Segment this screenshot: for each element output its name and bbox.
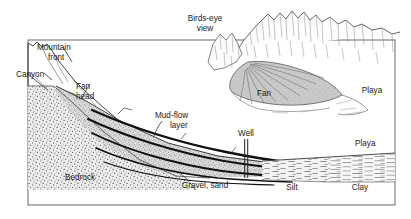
- inset-label-playa: Playa: [362, 86, 383, 95]
- label-bedrock: Bedrock: [65, 173, 96, 182]
- label-silt: Silt: [286, 183, 298, 192]
- figure-canvas: Mountain front Canyon Fan head Mud-flow …: [0, 0, 411, 219]
- label-well: Well: [238, 129, 254, 138]
- label-mudflow-2: layer: [170, 121, 188, 130]
- inset-label-fan: Fan: [257, 89, 272, 98]
- label-mountain-front-2: front: [48, 53, 65, 62]
- birds-eye-inset: Birds-eye view Fan Playa: [188, 11, 400, 115]
- cross-section-figure: Mountain front Canyon Fan head Mud-flow …: [0, 0, 411, 219]
- label-fan-head-2: head: [76, 92, 95, 101]
- label-playa-section: Playa: [355, 139, 376, 148]
- inset-title-1: Birds-eye: [188, 14, 223, 23]
- label-canyon: Canyon: [16, 70, 45, 79]
- label-mudflow-1: Mud-flow: [155, 111, 188, 120]
- label-mountain-front-1: Mountain: [37, 43, 71, 52]
- label-gravel-sand: Gravel, sand: [182, 181, 229, 190]
- inset-title-2: view: [197, 24, 213, 33]
- label-clay: Clay: [352, 183, 369, 192]
- label-fan-head-1: Fan: [76, 82, 91, 91]
